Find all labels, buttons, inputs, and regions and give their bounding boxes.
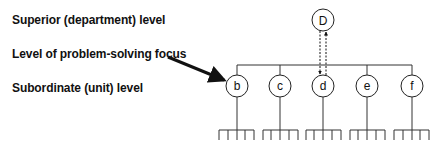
node-f: f bbox=[394, 65, 429, 140]
node-d: d bbox=[306, 75, 341, 140]
hierarchy-diagram: D b c d e f bbox=[0, 0, 443, 145]
node-D: D bbox=[312, 9, 334, 31]
node-c: c bbox=[263, 65, 298, 140]
node-e: e bbox=[350, 65, 385, 140]
node-d-label: d bbox=[320, 79, 327, 93]
node-b: b bbox=[219, 65, 254, 140]
node-e-label: e bbox=[364, 79, 371, 93]
node-D-label: D bbox=[319, 14, 328, 28]
node-b-label: b bbox=[234, 79, 241, 93]
focus-arrow bbox=[168, 57, 224, 80]
node-c-label: c bbox=[277, 79, 283, 93]
